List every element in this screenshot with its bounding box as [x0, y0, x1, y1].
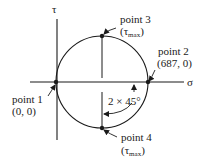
mohr-circle-diagram: τ σ point 1 (0, 0) point 2 (687, 0) poin… [0, 0, 202, 162]
point-4-leader [104, 130, 117, 137]
point-4-coords-prefix: (τ [121, 144, 129, 156]
angle-label: 2 × 45° [108, 95, 141, 107]
point-3-marker [100, 34, 104, 38]
point-3-coords: (τmax) [120, 25, 144, 41]
point-3-leader [104, 28, 116, 34]
point-4-coords-suffix: ) [141, 144, 145, 156]
point-2-leader [149, 70, 155, 81]
point-4-marker [100, 126, 104, 130]
point-4-coords-sub: max [129, 150, 141, 158]
point-3-coords-prefix: (τ [120, 25, 128, 37]
point-1-marker [54, 80, 58, 84]
point-4-label: point 4 [121, 131, 152, 143]
point-1-label: point 1 [12, 93, 43, 105]
point-3-coords-suffix: ) [140, 25, 144, 37]
diagram-graphics [0, 0, 202, 162]
point-2-coords: (687, 0) [157, 57, 192, 69]
point-2-label: point 2 [158, 45, 189, 57]
point-1-coords: (0, 0) [12, 105, 36, 117]
point-3-label: point 3 [120, 13, 151, 25]
point-4-coords: (τmax) [121, 144, 145, 160]
point-3-coords-sub: max [128, 31, 140, 39]
tau-axis-label: τ [52, 3, 56, 15]
sigma-axis-label: σ [187, 76, 193, 88]
point-1-leader [48, 85, 55, 96]
